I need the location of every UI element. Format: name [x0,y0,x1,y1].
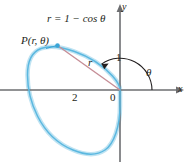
polar-cardioid-figure: r = 1 − cos θ P(r, θ) y x 0 1 2 r θ [0,0,191,162]
y-axis-label: y [122,2,126,12]
theta-label: θ [146,67,151,78]
x-axis-label: x [178,84,182,94]
figure-canvas [0,0,191,162]
equation-label: r = 1 − cos θ [47,13,105,24]
origin-tick-label: 0 [110,92,116,103]
y-tick-label-one: 1 [116,52,122,63]
radius-label: r [88,57,92,68]
point-label: P(r, θ) [21,35,49,46]
x-tick-label-two: 2 [72,92,78,103]
